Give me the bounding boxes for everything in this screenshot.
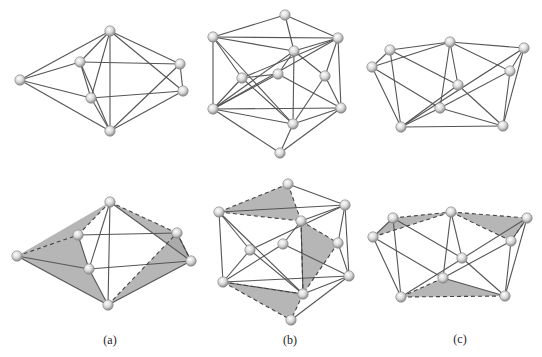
atom-node [73, 230, 83, 240]
bond-edge [285, 15, 294, 51]
bond-edge [213, 37, 294, 51]
atom-node [453, 80, 463, 90]
bond-edge [213, 51, 294, 109]
bond-edge [401, 85, 458, 127]
atom-node [103, 300, 113, 310]
shaded-faces [17, 184, 527, 320]
bond-edge [278, 74, 341, 108]
panel-label-b: (b) [283, 333, 297, 347]
atom-node [388, 213, 398, 223]
polyhedra-diagram: (a)(b)(c) [0, 0, 542, 357]
atom-node [278, 239, 288, 249]
atom-node [178, 86, 188, 96]
atom-node [289, 46, 299, 56]
atom-node [333, 33, 343, 43]
bond-edge [213, 78, 242, 109]
atom-node [438, 273, 448, 283]
atom-node [283, 179, 293, 189]
atom-node [385, 45, 395, 55]
bond-edge [505, 241, 511, 296]
bond-edge [20, 62, 80, 80]
shaded-face [108, 233, 191, 305]
atom-node [214, 207, 224, 217]
atom-node [396, 122, 406, 132]
bond-edge [450, 42, 458, 85]
bond-edge [373, 237, 443, 278]
atom-node [519, 43, 529, 53]
bond-edge [338, 205, 345, 243]
bond-edge [213, 37, 338, 38]
panel-label-c: (c) [453, 332, 466, 346]
bond-edge [213, 37, 242, 78]
atom-node [12, 251, 22, 261]
atom-node [457, 253, 467, 263]
bond-edge [91, 91, 183, 98]
bond-edge [293, 76, 325, 124]
atom-node [280, 10, 290, 20]
bond-edge [110, 31, 180, 64]
bond-edge [213, 15, 285, 37]
bond-edge [503, 71, 510, 126]
bond-edge [242, 78, 293, 124]
atom-node [208, 104, 218, 114]
bond-edge [110, 91, 183, 131]
atom-node [275, 148, 285, 158]
bond-edge [219, 212, 223, 282]
atom-node [435, 103, 445, 113]
atom-node [218, 277, 228, 287]
atom-node [237, 73, 247, 83]
bond-edge [110, 64, 180, 131]
bond-edge [280, 108, 341, 153]
atom-node [498, 121, 508, 131]
bond-edge [390, 42, 450, 50]
edges [17, 15, 527, 320]
atom-node [175, 59, 185, 69]
shaded-face [219, 184, 301, 221]
shaded-face [451, 212, 527, 241]
atom-node [172, 228, 182, 238]
atom-node [506, 236, 516, 246]
atom-node [288, 119, 298, 129]
atom-node [340, 200, 350, 210]
atom-node [344, 271, 354, 281]
bond-edge [80, 62, 91, 98]
panel-label-a: (a) [103, 333, 116, 347]
bond-edge [213, 108, 341, 109]
atom-node [522, 213, 532, 223]
bond-edge [294, 38, 338, 51]
atom-node [396, 292, 406, 302]
atom-node [105, 126, 115, 136]
atom-node [15, 75, 25, 85]
bond-edge [338, 38, 341, 108]
panel-labels: (a)(b)(c) [103, 332, 466, 347]
bond-edge [285, 15, 338, 38]
atom-node [505, 66, 515, 76]
atom-node [336, 103, 346, 113]
bond-edge [80, 62, 180, 64]
atom-node [286, 315, 296, 325]
atom-node [105, 26, 115, 36]
bond-edge [20, 80, 91, 98]
bond-edge [401, 126, 503, 127]
bond-edge [293, 51, 294, 124]
atom-node [500, 291, 510, 301]
bond-edge [108, 202, 110, 305]
bond-edge [401, 108, 440, 127]
atom-node [84, 264, 94, 274]
bond-edge [373, 237, 401, 297]
atom-node [105, 197, 115, 207]
atom-node [446, 207, 456, 217]
atom-node [245, 245, 255, 255]
bond-edge [443, 241, 511, 278]
bond-edge [20, 31, 110, 80]
bond-edge [20, 80, 110, 131]
bond-edge [440, 71, 510, 108]
atom-node [333, 238, 343, 248]
atom-node [86, 93, 96, 103]
bond-edge [372, 42, 450, 67]
bond-edge [288, 184, 345, 205]
atom-node [186, 256, 196, 266]
bond-edge [219, 212, 250, 250]
atom-node [367, 62, 377, 72]
shaded-face [373, 212, 451, 237]
